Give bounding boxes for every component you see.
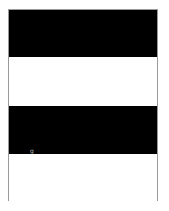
white-band-upper — [9, 57, 157, 106]
small-mark-label: g — [30, 148, 34, 154]
white-band-bottom — [9, 154, 157, 201]
black-band-top — [9, 10, 157, 57]
document-page: g — [8, 9, 158, 201]
